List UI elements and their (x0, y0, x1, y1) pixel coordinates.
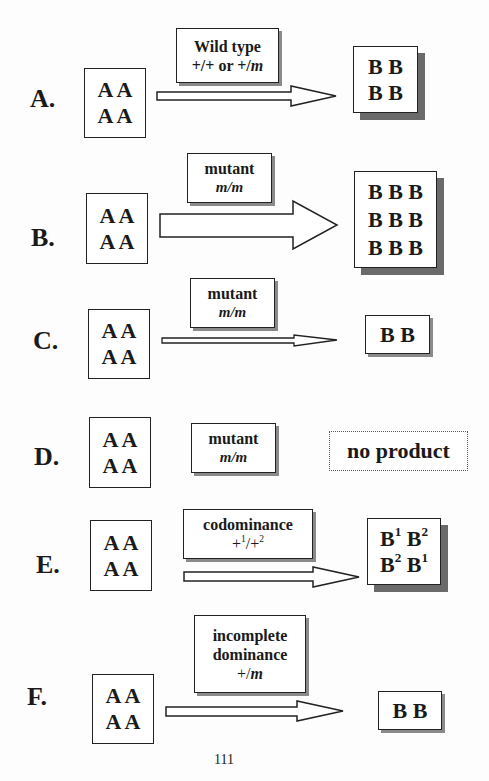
allele-sup: 1 (421, 550, 428, 565)
output-grid-line: B1 B2 (380, 526, 428, 552)
genotype-sub-sup: 2 (259, 533, 264, 544)
output-grid-b: B B B B B B B B B (354, 171, 437, 268)
genotype-title: codominance (203, 515, 293, 534)
row-label-a: A. (30, 86, 55, 112)
output-grid-line: B B B (368, 234, 423, 262)
input-grid-b: A A A A (86, 193, 148, 264)
genotype-title: mutant (209, 429, 259, 448)
input-grid-e: A A A A (90, 520, 152, 591)
genotype-title-line: incomplete (213, 626, 288, 645)
genotype-sub-plain: +/+ or +/ (192, 57, 251, 74)
input-grid-line: A A (102, 318, 137, 344)
output-grid-line: B B (393, 698, 428, 724)
genotype-box-e: codominance +1/+2 (183, 509, 313, 559)
output-grid-line: B B (368, 80, 403, 106)
allele-sup: 2 (421, 524, 428, 539)
output-grid-line: B2 B1 (380, 552, 428, 578)
arrow-icon-e (183, 566, 363, 588)
genotype-box-f: incomplete dominance +/m (194, 615, 306, 693)
genotype-sub-part: + (232, 535, 241, 552)
genotype-title: mutant (205, 159, 255, 178)
output-grid-line: B B (368, 54, 403, 80)
allele: B (407, 526, 422, 551)
output-grid-line: B B B (368, 178, 423, 206)
genotype-sub: +/+ or +/m (192, 56, 264, 75)
genotype-box-d: mutant m/m (191, 423, 276, 473)
output-grid-a: B B B B (353, 46, 418, 113)
input-grid-line: A A (103, 427, 138, 453)
genotype-box-b: mutant m/m (187, 153, 272, 203)
genotype-sub-plain: +/ (237, 665, 250, 682)
output-grid-e: B1 B2 B2 B1 (367, 518, 441, 585)
row-label-f: F. (27, 684, 47, 710)
row-label-d: D. (34, 444, 59, 470)
allele-sup: 2 (395, 550, 402, 565)
genotype-sub-italic: m (251, 665, 263, 682)
genotype-sub: m/m (220, 448, 248, 467)
input-grid-line: A A (103, 453, 138, 479)
row-label-b: B. (31, 225, 55, 251)
genotype-sub: +1/+2 (232, 534, 264, 553)
output-grid-f: B B (378, 691, 442, 730)
arrow-icon-c (161, 334, 341, 348)
input-grid-line: A A (102, 344, 137, 370)
genotype-sub: m/m (216, 178, 244, 197)
input-grid-line: A A (100, 229, 135, 255)
input-grid-line: A A (100, 203, 135, 229)
genotype-sub: m/m (219, 303, 247, 322)
arrow-icon-b (159, 200, 339, 252)
input-grid-line: A A (104, 556, 139, 582)
genotype-sub: +/m (237, 664, 263, 683)
input-grid-d: A A A A (89, 417, 151, 488)
genotype-title: Wild type (194, 37, 261, 56)
allele-sup: 1 (395, 524, 402, 539)
arrow-icon-f (165, 700, 347, 724)
genotype-box-a: Wild type +/+ or +/m (176, 28, 279, 83)
allele: B (380, 526, 395, 551)
page-number: 111 (214, 752, 234, 768)
input-grid-line: A A (106, 683, 141, 709)
input-grid-line: A A (98, 77, 133, 103)
input-grid-line: A A (98, 103, 133, 129)
genotype-box-c: mutant m/m (190, 278, 275, 328)
output-grid-c: B B (365, 315, 430, 354)
no-product-box: no product (329, 431, 468, 471)
genotype-title: mutant (208, 284, 258, 303)
input-grid-line: A A (106, 709, 141, 735)
input-grid-f: A A A A (92, 674, 154, 744)
input-grid-a: A A A A (84, 68, 146, 138)
allele: B (380, 552, 395, 577)
output-grid-line: B B (380, 322, 415, 348)
input-grid-line: A A (104, 530, 139, 556)
genotype-sub-part: /+ (246, 535, 259, 552)
no-product-text: no product (347, 438, 450, 464)
row-label-c: C. (33, 328, 58, 354)
genotype-title-line: dominance (213, 645, 288, 664)
genotype-sub-italic: m (251, 57, 263, 74)
arrow-icon-a (156, 84, 341, 108)
input-grid-c: A A A A (88, 309, 150, 379)
row-label-e: E. (36, 552, 60, 578)
output-grid-line: B B B (368, 206, 423, 234)
allele: B (407, 552, 422, 577)
